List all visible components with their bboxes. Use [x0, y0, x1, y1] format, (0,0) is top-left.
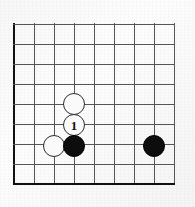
grid-line-horizontal	[13, 124, 175, 125]
stone-white-move-1[interactable]: 1	[63, 114, 85, 136]
grid-line-horizontal	[13, 84, 175, 85]
board-bottom-border	[13, 183, 175, 185]
grid-line-horizontal	[13, 104, 175, 105]
grid-line-horizontal	[13, 164, 175, 165]
stone-black-4[interactable]	[143, 135, 165, 157]
move-number-label: 1	[64, 115, 84, 135]
grid-line-horizontal	[13, 64, 175, 65]
grid-line-horizontal	[13, 24, 175, 25]
stone-white-0[interactable]	[63, 93, 85, 115]
grid-line-horizontal	[13, 44, 175, 45]
stone-white-2[interactable]	[43, 135, 65, 157]
go-diagram: 1	[0, 0, 195, 207]
go-board[interactable]: 1	[0, 0, 195, 207]
stone-black-3[interactable]	[63, 135, 85, 157]
